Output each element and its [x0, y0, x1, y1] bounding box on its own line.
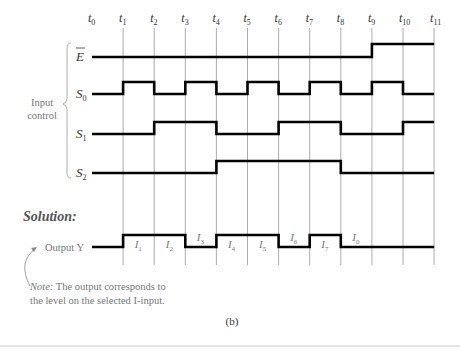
figure-caption: (b) [226, 315, 239, 328]
interval-label-i4: I4 [227, 238, 236, 253]
time-label-t3: t3 [181, 11, 188, 27]
signal-label-s2: S2 [76, 165, 87, 182]
time-label-t8: t8 [337, 11, 344, 27]
time-label-t9: t9 [368, 11, 375, 27]
input-control-brace [63, 43, 71, 178]
time-label-t10: t10 [399, 11, 410, 27]
waveform-s1 [92, 122, 434, 134]
time-label-t7: t7 [306, 11, 313, 27]
time-label-t6: t6 [275, 11, 282, 27]
output-label: Output Y [45, 242, 84, 253]
interval-label-i7: I7 [320, 238, 329, 253]
interval-label-i2: I2 [165, 238, 174, 253]
waveform-s0 [92, 82, 434, 94]
interval-label-i5: I5 [258, 238, 267, 253]
signal-label-s1: S1 [76, 126, 87, 143]
time-label-t1: t1 [119, 11, 126, 27]
time-label-t4: t4 [212, 11, 219, 27]
interval-label-i1: I1 [134, 238, 143, 253]
time-labels: t0t1t2t3t4t5t6t7t8t9t10t11 [88, 11, 441, 27]
signal-label-e: E [75, 49, 84, 64]
note-line1: Note: The output corresponds to [29, 281, 166, 292]
signal-label-s0: S0 [76, 86, 87, 103]
time-label-t0: t0 [88, 11, 95, 27]
solution-heading: Solution: [23, 209, 77, 224]
interval-label-i0: I0 [351, 231, 360, 246]
waveform-s2 [92, 161, 434, 173]
interval-label-i3: I3 [196, 231, 205, 246]
group-label-line2: control [27, 110, 57, 121]
time-gridlines [123, 28, 434, 265]
time-label-t2: t2 [150, 11, 157, 27]
note-line2: the level on the selected I-input. [30, 295, 165, 306]
waveform-e [92, 44, 434, 57]
interval-label-i6: I6 [289, 231, 298, 246]
waveforms [92, 44, 434, 247]
timing-diagram: t0t1t2t3t4t5t6t7t8t9t10t11 ES0S1S2I1I2I3… [0, 0, 460, 353]
time-label-t5: t5 [244, 11, 251, 27]
time-label-t11: t11 [430, 11, 441, 27]
group-label-line1: Input [31, 97, 53, 108]
signal-labels: ES0S1S2I1I2I3I4I5I6I7I0 [75, 48, 360, 253]
